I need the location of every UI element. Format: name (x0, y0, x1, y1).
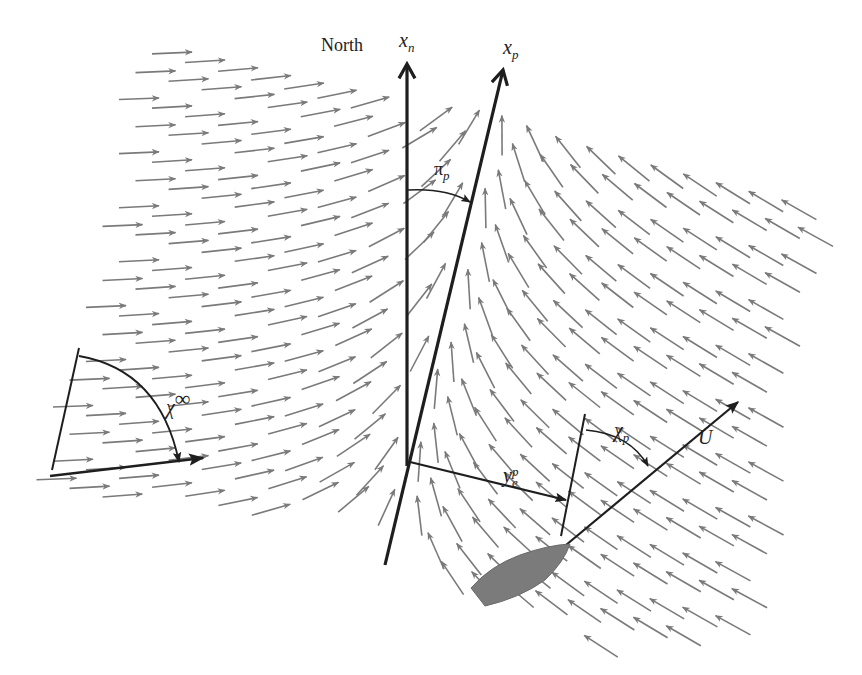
field-arrow (651, 165, 683, 189)
x-p-sub: p (512, 47, 519, 62)
field-arrow (651, 219, 684, 242)
chi-p-sub: p (623, 430, 630, 445)
pi-p-arc (408, 190, 470, 202)
field-arrow (683, 391, 717, 412)
field-arrow (301, 323, 339, 335)
field-arrow (252, 451, 291, 461)
field-arrow (749, 354, 784, 374)
field-arrow (443, 506, 462, 541)
field-arrow (458, 489, 480, 522)
field-arrow (218, 337, 258, 343)
field-arrow (618, 265, 650, 289)
field-arrow (235, 202, 275, 207)
field-arrow (70, 378, 110, 380)
field-arrow (553, 300, 582, 327)
field-arrow (319, 410, 355, 427)
field-arrow (302, 376, 340, 389)
field-arrow (169, 133, 209, 136)
field-arrow (169, 294, 209, 298)
field-arrow (202, 248, 242, 252)
field-arrow (601, 609, 635, 631)
field-arrow (569, 328, 600, 354)
field-arrow (302, 430, 339, 445)
field-arrow (136, 125, 176, 127)
field-arrow (555, 191, 582, 221)
field-arrow (765, 273, 800, 293)
field-arrow (749, 408, 784, 427)
x-p-label: xp (503, 37, 518, 61)
field-arrow (520, 509, 550, 535)
field-arrow (716, 183, 750, 204)
field-arrow (683, 499, 718, 519)
field-arrow (569, 383, 600, 408)
north-label: North (321, 36, 363, 54)
field-arrow (103, 279, 143, 281)
field-arrow (765, 219, 800, 239)
field-arrow (378, 489, 395, 525)
field-arrow (218, 498, 257, 506)
field-arrow (119, 421, 159, 424)
field-arrow (318, 304, 356, 317)
field-arrow (585, 473, 618, 496)
field-arrow (716, 453, 751, 473)
field-arrow (732, 210, 766, 231)
field-arrow (336, 382, 371, 401)
field-arrow (699, 364, 733, 385)
field-arrow (285, 297, 324, 306)
field-arrow (218, 283, 258, 288)
field-arrow (666, 626, 701, 646)
field-arrow (37, 478, 77, 480)
field-arrow (570, 219, 599, 247)
chi-inf-sup: ∞ (175, 386, 191, 411)
field-arrow (506, 363, 532, 394)
field-arrow (716, 291, 750, 312)
field-arrow (584, 635, 618, 657)
field-arrow (136, 448, 176, 452)
field-arrow (202, 194, 242, 198)
field-arrow (650, 436, 684, 457)
field-arrow (251, 237, 291, 243)
field-arrow (442, 183, 462, 217)
field-arrow (53, 459, 93, 461)
field-arrow (525, 181, 545, 215)
field-arrow (552, 572, 584, 596)
field-arrow (650, 328, 683, 350)
field-arrow (152, 214, 192, 217)
field-arrow (268, 317, 307, 326)
field-arrow (539, 209, 564, 240)
field-arrow (635, 184, 667, 208)
field-arrow (317, 90, 356, 98)
field-arrow (536, 428, 566, 454)
field-arrow (252, 397, 291, 406)
field-arrow (202, 409, 242, 415)
field-arrow (749, 191, 783, 211)
field-arrow (716, 345, 750, 365)
field-arrow (666, 518, 700, 539)
x-n-base: x (399, 29, 408, 51)
field-arrow (284, 83, 324, 89)
field-arrow (301, 109, 340, 116)
field-arrow (119, 152, 159, 154)
field-arrow (464, 324, 473, 363)
field-arrow (169, 348, 209, 352)
field-arrow (427, 263, 446, 298)
field-arrow (368, 123, 405, 137)
field-arrow (251, 290, 290, 297)
field-arrow (460, 434, 479, 469)
field-arrow (418, 442, 421, 482)
field-arrow (716, 616, 751, 635)
field-arrow (373, 385, 401, 414)
x-n-label: xn (399, 30, 414, 54)
field-arrow (351, 150, 389, 163)
field-arrow (185, 114, 225, 117)
field-arrow (468, 269, 470, 309)
field-arrow (459, 110, 480, 144)
field-arrow (375, 437, 398, 470)
field-arrow (570, 274, 600, 301)
field-arrow (152, 483, 192, 487)
field-arrow (185, 383, 225, 388)
field-arrow (218, 444, 257, 451)
field-arrow (152, 52, 192, 54)
field-arrow (136, 71, 176, 73)
field-arrow (319, 357, 356, 372)
